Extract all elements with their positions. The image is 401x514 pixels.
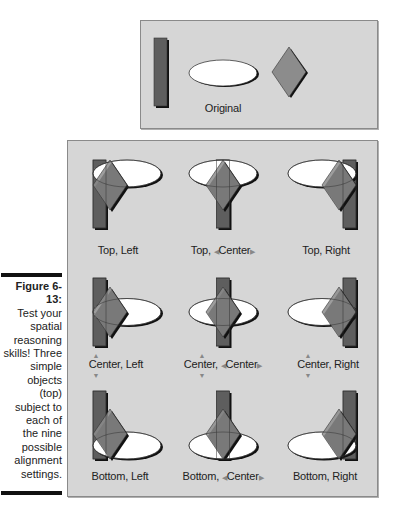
caption-line: (top) (0, 387, 62, 400)
diamond-shape (272, 47, 308, 98)
cell-label-top-center: Top, ◀Center▶ (191, 244, 255, 256)
figure-caption: Figure 6-13: Test your spatial reasoning… (0, 280, 62, 481)
alignment-grid-panel: Top, Left Top, ◀Center▶ Top, Right ▲ Cen… (67, 140, 378, 497)
alignment-cell-top-center (189, 160, 259, 230)
alignment-shapes (68, 141, 377, 496)
alignment-cell-center-left (93, 278, 163, 348)
caption-line: objects (0, 374, 62, 387)
figure-number: Figure 6-13: (0, 280, 62, 307)
original-shapes (141, 21, 377, 128)
caption-line: skills! Three (0, 347, 62, 360)
caption-line: settings. (0, 468, 62, 481)
alignment-cell-center-center (189, 278, 259, 348)
right-arrow-icon: ▶ (250, 248, 255, 255)
caption-top-rule (1, 273, 62, 277)
down-arrow-icon: ▼ (199, 372, 206, 379)
original-objects-panel: Original (140, 20, 378, 129)
rectangle-shape (154, 38, 169, 108)
alignment-cell-bottom-center (189, 391, 259, 461)
caption-line: spatial (0, 320, 62, 333)
caption-line: Test your (0, 307, 62, 320)
alignment-cell-bottom-right (288, 391, 358, 461)
caption-bottom-rule (1, 491, 62, 495)
caption-line: simple (0, 360, 62, 373)
right-arrow-icon: ▶ (257, 362, 262, 369)
caption-line: reasoning (0, 334, 62, 347)
cell-label-center-center: Center, ◀Center▶ (184, 358, 262, 370)
down-arrow-icon: ▼ (305, 372, 312, 379)
caption-line: alignment (0, 454, 62, 467)
alignment-cell-center-right (288, 278, 358, 348)
cell-label-bottom-center: Bottom, ◀Center▶ (183, 470, 264, 482)
cell-label-center-left: Center, Left (89, 358, 143, 370)
ellipse-shape (189, 60, 259, 87)
caption-line: the nine (0, 427, 62, 440)
right-arrow-icon: ▶ (259, 474, 264, 481)
alignment-cell-bottom-left (93, 391, 163, 461)
cell-label-center-right: Center, Right (297, 358, 359, 370)
cell-label-bottom-right: Bottom, Right (293, 470, 357, 482)
caption-line: each of (0, 414, 62, 427)
alignment-cell-top-right (288, 160, 358, 230)
alignment-cell-top-left (93, 160, 163, 230)
cell-label-top-right: Top, Right (302, 244, 350, 256)
caption-line: subject to (0, 401, 62, 414)
cell-label-bottom-left: Bottom, Left (92, 470, 149, 482)
original-label: Original (205, 102, 241, 114)
cell-label-top-left: Top, Left (98, 244, 138, 256)
down-arrow-icon: ▼ (93, 372, 100, 379)
caption-line: possible (0, 441, 62, 454)
